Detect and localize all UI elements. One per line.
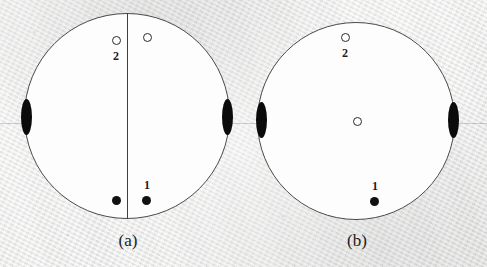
open-pole-center-b — [353, 117, 362, 126]
lens-pole-west-a — [21, 99, 32, 135]
open-pole-upper-right-a — [143, 33, 152, 42]
pole-label-1-a: 1 — [144, 179, 150, 191]
lens-pole-west-b — [256, 102, 267, 138]
open-pole-upper-left-a — [112, 36, 121, 45]
pole-label-2-b: 2 — [342, 47, 348, 59]
figure-root: 2 1 (a) 2 1 (b) — [0, 0, 487, 267]
vertical-divider-a — [127, 13, 128, 219]
panel-caption-b: (b) — [337, 232, 377, 249]
open-pole-upper-b — [341, 33, 350, 42]
filled-pole-lower-left-a — [112, 196, 121, 205]
lens-pole-east-b — [448, 102, 459, 138]
pole-label-2-a: 2 — [113, 50, 119, 62]
filled-pole-lower-b — [370, 197, 379, 206]
pole-label-1-b: 1 — [372, 180, 378, 192]
panel-caption-a: (a) — [108, 232, 148, 249]
filled-pole-lower-right-a — [142, 196, 151, 205]
lens-pole-east-a — [222, 99, 233, 135]
